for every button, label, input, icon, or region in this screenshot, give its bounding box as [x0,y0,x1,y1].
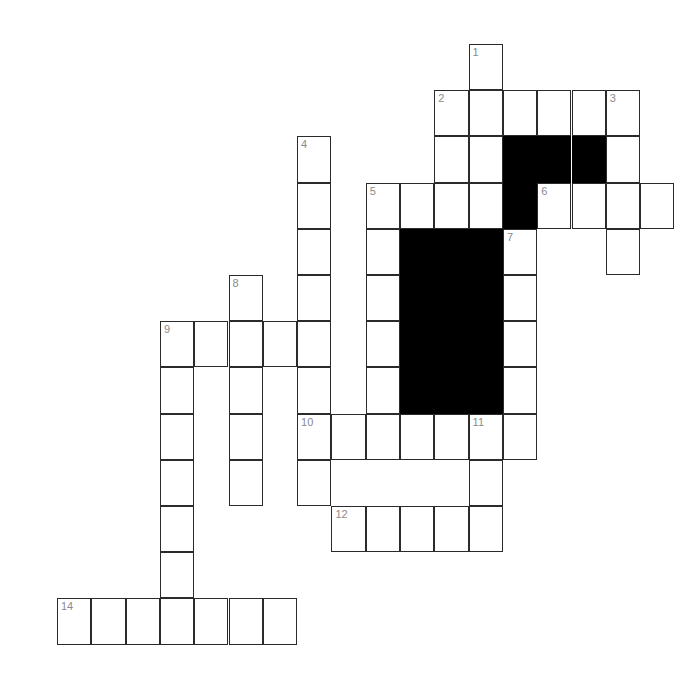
crossword-block-cell [434,229,468,275]
crossword-cell[interactable] [469,506,503,552]
crossword-block-cell [434,367,468,413]
cell-number: 7 [507,231,513,244]
cell-number: 6 [541,185,547,198]
crossword-cell[interactable] [194,321,228,367]
crossword-cell[interactable]: 7 [503,229,537,275]
crossword-cell[interactable] [503,367,537,413]
cell-number: 2 [438,92,444,105]
crossword-grid[interactable]: 12345678910111214 [0,0,698,698]
crossword-cell[interactable] [503,414,537,460]
crossword-cell[interactable] [366,367,400,413]
crossword-block-cell [434,275,468,321]
crossword-cell[interactable]: 5 [366,183,400,229]
crossword-block-cell [434,321,468,367]
crossword-cell[interactable] [229,460,263,506]
crossword-cell[interactable] [469,90,503,136]
crossword-cell[interactable]: 4 [297,136,331,182]
crossword-cell[interactable] [297,275,331,321]
crossword-puzzle: 12345678910111214 [0,0,698,698]
crossword-cell[interactable]: 8 [229,275,263,321]
cell-number: 4 [301,138,307,151]
crossword-cell[interactable]: 10 [297,414,331,460]
crossword-cell[interactable] [469,136,503,182]
crossword-cell[interactable] [366,506,400,552]
crossword-cell[interactable]: 3 [606,90,640,136]
crossword-cell[interactable] [297,321,331,367]
crossword-cell[interactable]: 12 [331,506,365,552]
crossword-cell[interactable]: 6 [537,183,571,229]
crossword-block-cell [537,136,571,182]
crossword-block-cell [400,275,434,321]
cell-number: 8 [233,277,239,290]
crossword-block-cell [469,229,503,275]
crossword-cell[interactable] [160,414,194,460]
crossword-cell[interactable] [297,229,331,275]
cell-number: 1 [473,46,479,59]
crossword-cell[interactable] [194,598,228,644]
crossword-cell[interactable] [503,90,537,136]
crossword-cell[interactable] [469,460,503,506]
crossword-cell[interactable] [606,136,640,182]
crossword-cell[interactable]: 14 [57,598,91,644]
crossword-cell[interactable]: 1 [469,44,503,90]
cell-number: 14 [61,600,73,613]
cell-number: 9 [164,323,170,336]
crossword-block-cell [400,321,434,367]
crossword-block-cell [503,136,537,182]
crossword-cell[interactable] [469,183,503,229]
crossword-cell[interactable] [160,506,194,552]
crossword-cell[interactable] [160,460,194,506]
crossword-cell[interactable] [434,414,468,460]
crossword-cell[interactable] [400,506,434,552]
crossword-cell[interactable] [229,598,263,644]
crossword-cell[interactable] [263,321,297,367]
crossword-cell[interactable] [606,183,640,229]
crossword-cell[interactable] [366,414,400,460]
crossword-cell[interactable] [434,136,468,182]
crossword-cell[interactable] [366,321,400,367]
crossword-cell[interactable] [400,414,434,460]
cell-number: 12 [335,508,347,521]
crossword-cell[interactable] [366,275,400,321]
cell-number: 10 [301,416,313,429]
crossword-cell[interactable] [91,598,125,644]
crossword-cell[interactable] [160,598,194,644]
crossword-block-cell [400,367,434,413]
crossword-cell[interactable] [503,321,537,367]
cell-number: 3 [610,92,616,105]
crossword-cell[interactable] [572,90,606,136]
crossword-cell[interactable] [297,460,331,506]
crossword-cell[interactable] [297,183,331,229]
cell-number: 11 [473,416,484,429]
crossword-cell[interactable] [126,598,160,644]
crossword-cell[interactable] [297,367,331,413]
crossword-cell[interactable] [572,183,606,229]
crossword-cell[interactable] [640,183,674,229]
crossword-cell[interactable] [229,414,263,460]
crossword-cell[interactable] [229,367,263,413]
crossword-block-cell [400,229,434,275]
crossword-cell[interactable] [331,414,365,460]
crossword-cell[interactable] [263,598,297,644]
crossword-block-cell [503,183,537,229]
crossword-cell[interactable] [229,321,263,367]
crossword-cell[interactable]: 2 [434,90,468,136]
crossword-cell[interactable] [366,229,400,275]
crossword-block-cell [469,321,503,367]
crossword-cell[interactable] [160,552,194,598]
crossword-cell[interactable] [400,183,434,229]
crossword-block-cell [572,136,606,182]
crossword-cell[interactable] [503,275,537,321]
cell-number: 5 [370,185,376,198]
crossword-cell[interactable] [537,90,571,136]
crossword-cell[interactable] [606,229,640,275]
crossword-cell[interactable] [160,367,194,413]
crossword-cell[interactable] [434,183,468,229]
crossword-cell[interactable]: 9 [160,321,194,367]
crossword-block-cell [469,275,503,321]
crossword-cell[interactable]: 11 [469,414,503,460]
crossword-cell[interactable] [434,506,468,552]
crossword-block-cell [469,367,503,413]
